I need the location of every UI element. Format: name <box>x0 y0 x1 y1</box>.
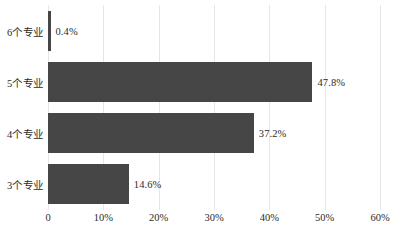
x-tick-label: 60% <box>370 212 389 223</box>
bar-chart: 6个专业0.4%5个专业47.8%4个专业37.2%3个专业14.6% 010%… <box>0 0 394 245</box>
x-tick-label: 50% <box>315 212 334 223</box>
bar-value-label: 37.2% <box>259 128 287 139</box>
bar <box>48 62 312 102</box>
bar <box>48 164 129 204</box>
x-tick-label: 40% <box>260 212 279 223</box>
bar-value-label: 14.6% <box>134 179 162 190</box>
category-label: 5个专业 <box>7 74 43 89</box>
bar-row: 4个专业37.2% <box>48 113 380 153</box>
x-tick-label: 0 <box>45 212 50 223</box>
category-label: 3个专业 <box>7 177 43 192</box>
x-tick-label: 10% <box>94 212 113 223</box>
gridline-60% <box>380 5 381 210</box>
x-tick-label: 30% <box>204 212 223 223</box>
x-tick-label: 20% <box>149 212 168 223</box>
bar-row: 3个专业14.6% <box>48 164 380 204</box>
bar-row: 6个专业0.4% <box>48 11 380 51</box>
bar-row: 5个专业47.8% <box>48 62 380 102</box>
category-label: 6个专业 <box>7 23 43 38</box>
category-label: 4个专业 <box>7 126 43 141</box>
bar <box>48 113 254 153</box>
bar <box>48 11 51 51</box>
bar-value-label: 0.4% <box>56 25 78 36</box>
x-axis: 010%20%30%40%50%60% <box>48 212 380 232</box>
bar-value-label: 47.8% <box>317 76 345 87</box>
plot-area: 6个专业0.4%5个专业47.8%4个专业37.2%3个专业14.6% <box>48 5 380 210</box>
